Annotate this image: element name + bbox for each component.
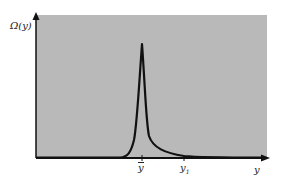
- plot-background: [36, 15, 267, 158]
- plot-area: [0, 0, 281, 188]
- y-axis-label: Ω(y): [10, 21, 32, 31]
- tick-label-y1: y1: [180, 163, 189, 175]
- x-axis-label: y: [254, 165, 260, 175]
- tick-label-ybar: y: [138, 163, 144, 173]
